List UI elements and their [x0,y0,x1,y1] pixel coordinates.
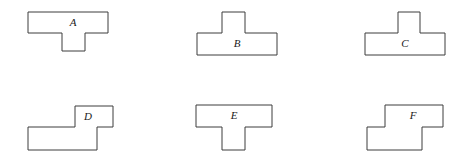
shape-group-b: B [197,12,277,55]
shape-e-label-text: E [230,109,238,121]
shape-f-outline [367,105,443,150]
shape-group-e: E [196,105,272,150]
shape-a-label-text: A [69,16,77,28]
shape-d-outline [28,106,113,150]
shape-f-label-text: F [409,109,417,121]
shape-b-label-text: B [234,37,241,49]
shape-d-label-text: D [83,110,92,122]
shape-group-a: A [28,12,108,51]
shape-c-label-text: C [401,37,409,49]
shape-group-d: D [28,106,113,150]
shape-group-c: C [365,12,445,55]
shape-e-label: E [230,109,238,121]
figure-canvas: A B C D E F [0,0,468,164]
shape-c-label: C [401,37,409,49]
shape-group-f: F [367,105,443,150]
shapes-diagram: A B C D E F [0,0,468,164]
shape-b-label: B [234,37,241,49]
shape-d-label: D [83,110,92,122]
shape-a-outline [28,12,108,51]
shape-a-label: A [69,16,77,28]
shape-f-label: F [409,109,417,121]
shape-b-outline [197,12,277,55]
shape-c-outline [365,12,445,55]
